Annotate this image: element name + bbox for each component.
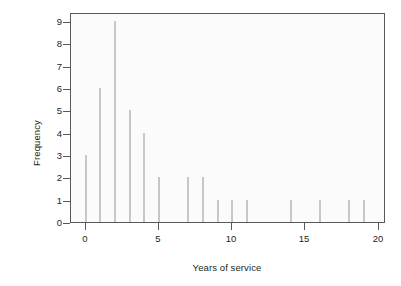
y-axis-tick (63, 44, 70, 45)
x-axis-tick-label: 5 (143, 233, 173, 244)
bar (217, 200, 219, 222)
y-axis-tick-label: 2 (32, 173, 62, 183)
x-axis-tick (158, 223, 159, 230)
bar (143, 133, 145, 222)
y-axis-tick (63, 156, 70, 157)
y-axis-tick-label: 1 (32, 196, 62, 206)
y-axis-tick (63, 22, 70, 23)
bar (319, 200, 321, 222)
plot-panel (70, 13, 385, 223)
x-axis-tick-label: 15 (289, 233, 319, 244)
y-axis-tick-label: 5 (32, 106, 62, 116)
x-axis-tick-label: 20 (363, 233, 393, 244)
bar (363, 200, 365, 222)
plot-area (71, 14, 384, 222)
y-axis-tick-label: 6 (32, 84, 62, 94)
x-axis-tick (231, 223, 232, 230)
bar (246, 200, 248, 222)
y-axis-tick (63, 178, 70, 179)
y-axis-tick (63, 201, 70, 202)
x-axis-tick (378, 223, 379, 230)
y-axis-tick-label: 0 (32, 218, 62, 228)
y-axis-tick (63, 89, 70, 90)
y-axis-tick-label: 9 (32, 17, 62, 27)
bar (348, 200, 350, 222)
x-axis-tick-label: 0 (70, 233, 100, 244)
x-axis-title: Years of service (72, 262, 382, 276)
bar (231, 200, 233, 222)
y-axis-tick (63, 111, 70, 112)
bar (99, 88, 101, 222)
x-axis-tick (304, 223, 305, 230)
chart-figure: Frequency Years of service 0123456789051… (0, 0, 401, 286)
y-axis-tick (63, 67, 70, 68)
bar (202, 177, 204, 222)
bar (129, 110, 131, 222)
x-axis-tick (85, 223, 86, 230)
y-axis-tick (63, 223, 70, 224)
bar (114, 21, 116, 222)
y-axis-tick (63, 134, 70, 135)
bar (290, 200, 292, 222)
y-axis-tick-label: 4 (32, 129, 62, 139)
bar (158, 177, 160, 222)
y-axis-tick-label: 8 (32, 39, 62, 49)
y-axis-tick-label: 3 (32, 151, 62, 161)
bar (187, 177, 189, 222)
x-axis-tick-label: 10 (216, 233, 246, 244)
bar (85, 155, 87, 222)
y-axis-tick-label: 7 (32, 62, 62, 72)
